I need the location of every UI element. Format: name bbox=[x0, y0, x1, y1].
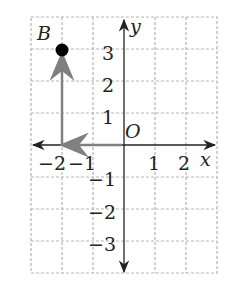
point-b bbox=[56, 44, 69, 57]
x-tick-neg1: −1 bbox=[68, 152, 96, 174]
point-b-label: B bbox=[36, 22, 51, 44]
y-tick-3: 3 bbox=[102, 42, 114, 64]
x-axis-label: x bbox=[200, 148, 211, 170]
translation-arrows bbox=[62, 56, 122, 145]
coordinate-plane: B y x O 3 2 1 −1 −2 −3 −2 −1 1 2 bbox=[0, 0, 231, 291]
x-tick-1: 1 bbox=[148, 152, 160, 174]
y-axis-label: y bbox=[129, 15, 141, 37]
y-tick-2: 2 bbox=[102, 74, 114, 96]
y-tick-neg3: −3 bbox=[88, 233, 116, 255]
x-tick-neg2: −2 bbox=[38, 152, 66, 174]
origin-label: O bbox=[125, 120, 141, 142]
y-tick-1: 1 bbox=[102, 106, 114, 128]
axes bbox=[33, 20, 215, 272]
x-tick-2: 2 bbox=[178, 152, 190, 174]
y-tick-neg2: −2 bbox=[88, 201, 116, 223]
